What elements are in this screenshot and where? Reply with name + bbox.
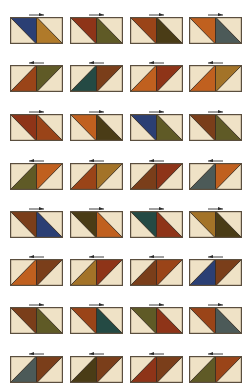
- hst-block: [10, 356, 63, 383]
- hst-block: [189, 114, 242, 141]
- hst-block: [10, 259, 63, 286]
- hst-block: [10, 163, 63, 190]
- hst-block: [10, 114, 63, 141]
- hst-block: [189, 356, 242, 383]
- hst-block: [130, 307, 183, 334]
- hst-block: [130, 163, 183, 190]
- hst-block: [189, 211, 242, 238]
- hst-block: [189, 17, 242, 44]
- hst-block: [130, 259, 183, 286]
- hst-block: [189, 259, 242, 286]
- hst-block: [189, 163, 242, 190]
- hst-block: [130, 17, 183, 44]
- hst-block: [10, 17, 63, 44]
- hst-block: [130, 356, 183, 383]
- hst-block: [70, 211, 123, 238]
- hst-block: [70, 356, 123, 383]
- hst-block: [189, 65, 242, 92]
- hst-block: [70, 65, 123, 92]
- hst-block: [70, 163, 123, 190]
- hst-block: [189, 307, 242, 334]
- hst-block: [10, 307, 63, 334]
- hst-block: [130, 65, 183, 92]
- hst-block: [130, 114, 183, 141]
- hst-block: [70, 114, 123, 141]
- hst-block: [10, 211, 63, 238]
- hst-block: [70, 259, 123, 286]
- hst-block: [10, 65, 63, 92]
- hst-block: [70, 307, 123, 334]
- hst-block: [130, 211, 183, 238]
- hst-block: [70, 17, 123, 44]
